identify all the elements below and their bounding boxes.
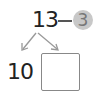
answer-box[interactable] <box>41 53 80 91</box>
arrow-right-icon <box>38 33 58 50</box>
arrow-left-icon <box>22 33 36 50</box>
left-result-number: 10 <box>7 61 33 83</box>
